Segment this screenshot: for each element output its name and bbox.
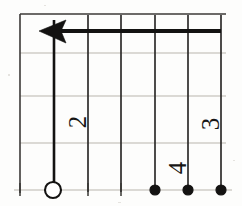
digit-label-4: 4 [164, 161, 191, 174]
open-circle-point [45, 182, 61, 198]
closed-circle-point-1 [150, 185, 160, 195]
graph-paper-figure: 2 4 3 [0, 0, 242, 206]
figure-root: 2 4 3 [0, 0, 242, 206]
digit-label-3: 3 [197, 118, 224, 131]
digit-label-2: 2 [64, 116, 91, 129]
closed-circle-point-2 [183, 185, 193, 195]
closed-circle-point-3 [216, 185, 226, 195]
